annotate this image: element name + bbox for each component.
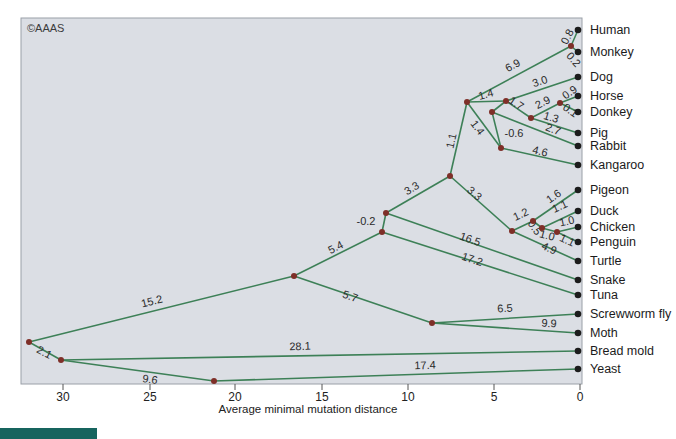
species-node (575, 74, 582, 81)
species-label: Horse (590, 89, 623, 103)
internal-node (447, 173, 453, 179)
branch-length-label: 28.1 (289, 340, 311, 353)
axis-tick-label: 15 (315, 390, 329, 404)
internal-node (379, 229, 385, 235)
species-label: Human (590, 23, 630, 37)
x-axis-title: Average minimal mutation distance (219, 403, 398, 415)
species-node (575, 109, 582, 116)
species-label: Yeast (590, 362, 621, 376)
species-node (575, 93, 582, 100)
species-node (575, 208, 582, 215)
species-label: Chicken (590, 220, 635, 234)
internal-node (26, 339, 32, 345)
internal-node (528, 115, 534, 121)
species-label: Moth (590, 326, 618, 340)
species-label: Pig (590, 126, 608, 140)
species-label: Rabbit (590, 139, 627, 153)
species-node (575, 143, 582, 150)
internal-node (58, 357, 64, 363)
species-node (575, 162, 582, 169)
internal-node (489, 109, 495, 115)
species-label: Monkey (590, 45, 635, 59)
species-node (575, 277, 582, 284)
internal-node (554, 229, 560, 235)
axis-tick-label: 20 (228, 390, 242, 404)
species-labels: HumanMonkeyDogHorseDonkeyPigRabbitKangar… (590, 23, 672, 376)
species-label: Bread mold (590, 344, 654, 358)
species-node (575, 348, 582, 355)
species-label: Screwworm fly (590, 307, 672, 321)
internal-node (464, 99, 470, 105)
tree-svg: ©AAAS 15.22.128.19.617.45.45.76.59.9-0.2… (0, 0, 676, 439)
species-node (575, 366, 582, 373)
internal-node (503, 98, 509, 104)
internal-node (498, 145, 504, 151)
branch-length-label: 9.6 (142, 372, 159, 386)
internal-node (530, 218, 536, 224)
species-node (575, 27, 582, 34)
internal-node (383, 210, 389, 216)
axis-tick-label: 30 (56, 390, 70, 404)
species-label: Duck (590, 204, 619, 218)
branch-length-label: 17.4 (414, 359, 436, 372)
species-label: Tuna (590, 288, 618, 302)
species-node (575, 130, 582, 137)
internal-node (509, 228, 515, 234)
axis-ticks: 302520151050 (56, 384, 583, 404)
branch-length-label: -0.2 (357, 215, 376, 227)
axis-tick-label: 25 (143, 390, 157, 404)
species-label: Turtle (590, 254, 622, 268)
internal-node (557, 100, 563, 106)
species-node (575, 49, 582, 56)
species-label: Pigeon (590, 183, 629, 197)
internal-node (211, 378, 217, 384)
species-node (575, 239, 582, 246)
plot-area (21, 18, 582, 384)
branch-length-label: 6.5 (497, 301, 513, 314)
species-label: Snake (590, 273, 625, 287)
internal-node (539, 225, 545, 231)
species-node (575, 258, 582, 265)
branch-length-label: 9.9 (541, 316, 557, 329)
internal-node (429, 320, 435, 326)
axis-tick-label: 5 (491, 390, 498, 404)
axis-tick-label: 0 (577, 390, 584, 404)
copyright-label: ©AAAS (27, 22, 64, 34)
species-node (575, 224, 582, 231)
species-node (575, 311, 582, 318)
branch-length-label: -0.6 (505, 127, 524, 139)
species-node (575, 187, 582, 194)
species-node (575, 292, 582, 299)
branch (467, 101, 506, 102)
species-label: Donkey (590, 105, 633, 119)
species-node (575, 330, 582, 337)
internal-node (568, 43, 574, 49)
corner-badge (0, 428, 97, 439)
species-label: Kangaroo (590, 158, 644, 172)
internal-node (291, 273, 297, 279)
axis-tick-label: 10 (401, 390, 415, 404)
species-label: Dog (590, 70, 613, 84)
species-label: Penguin (590, 235, 636, 249)
figure: ©AAAS 15.22.128.19.617.45.45.76.59.9-0.2… (0, 0, 676, 439)
